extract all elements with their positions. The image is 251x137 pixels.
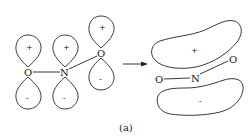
- bond-right-o1-n: [164, 78, 190, 79]
- o1-plus-sign: +: [26, 43, 33, 52]
- o2-lower-lobe: [89, 58, 114, 90]
- right-atom-o2-label: O: [229, 54, 237, 65]
- atom-n-label: N: [60, 67, 69, 78]
- no2-orbital-diagram: O N O + - + - + - O N O + - (a): [0, 0, 251, 137]
- o1-lower-lobe: [16, 77, 41, 109]
- atom-o1-label: O: [24, 67, 32, 78]
- n-lower-lobe: [53, 77, 78, 109]
- right-atom-o1-label: O: [155, 74, 163, 85]
- o1-minus-sign: -: [26, 94, 29, 103]
- bond-right-n-o2: [200, 61, 228, 74]
- figure-caption: (a): [119, 122, 133, 133]
- diagram-canvas: O N O + - + - + - O N O + - (a): [0, 0, 251, 137]
- o2-plus-sign: +: [99, 23, 106, 32]
- atom-o2-label: O: [97, 48, 105, 59]
- n-minus-sign: -: [63, 94, 66, 103]
- arrow-head-icon: [141, 62, 148, 67]
- n-plus-sign: +: [63, 43, 70, 52]
- o2-minus-sign: -: [99, 75, 102, 84]
- upper-lobe-plus-sign: +: [191, 46, 198, 55]
- right-atom-n-label: N: [191, 73, 200, 84]
- lower-lobe-minus-sign: -: [199, 97, 202, 106]
- o2-upper-lobe: [89, 16, 114, 48]
